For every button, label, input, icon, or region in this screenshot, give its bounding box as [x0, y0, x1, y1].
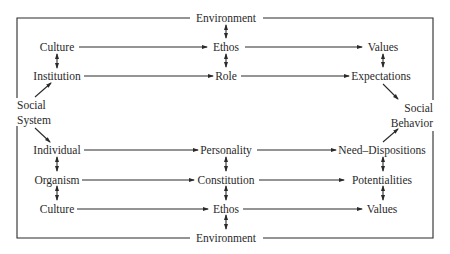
social-behavior-label-1: Social — [404, 102, 433, 114]
organism-label: Organism — [34, 174, 79, 187]
environment-top-label: Environment — [196, 12, 257, 24]
ethos-bottom-label: Ethos — [213, 203, 240, 215]
expectations-label: Expectations — [351, 70, 411, 83]
arrow-social-system-institution — [35, 83, 51, 97]
potentialities-label: Potentialities — [352, 174, 413, 186]
values-top-label: Values — [368, 41, 399, 53]
culture-bottom-label: Culture — [40, 203, 75, 215]
institution-label: Institution — [33, 70, 81, 82]
ethos-top-label: Ethos — [213, 41, 240, 53]
role-label: Role — [215, 70, 237, 82]
personality-label: Personality — [200, 144, 252, 157]
arrow-need-dispositions-social-behavior — [383, 129, 398, 142]
need-dispositions-label: Need–Dispositions — [338, 144, 426, 157]
culture-top-label: Culture — [40, 41, 75, 53]
arrow-expectations-social-behavior — [383, 84, 398, 99]
frame-top-right — [263, 18, 433, 100]
social-system-label-2: System — [17, 114, 51, 127]
individual-label: Individual — [33, 144, 80, 156]
environment-bottom-label: Environment — [196, 232, 257, 244]
social-system-label-1: Social — [17, 99, 46, 111]
arrow-social-system-individual — [35, 128, 50, 142]
frame-top-left — [17, 18, 190, 98]
social-behavior-label-2: Behavior — [391, 117, 433, 129]
values-bottom-label: Values — [367, 203, 398, 215]
social-systems-diagram: Environment Environment Social System So… — [0, 0, 450, 254]
constitution-label: Constitution — [198, 174, 255, 186]
